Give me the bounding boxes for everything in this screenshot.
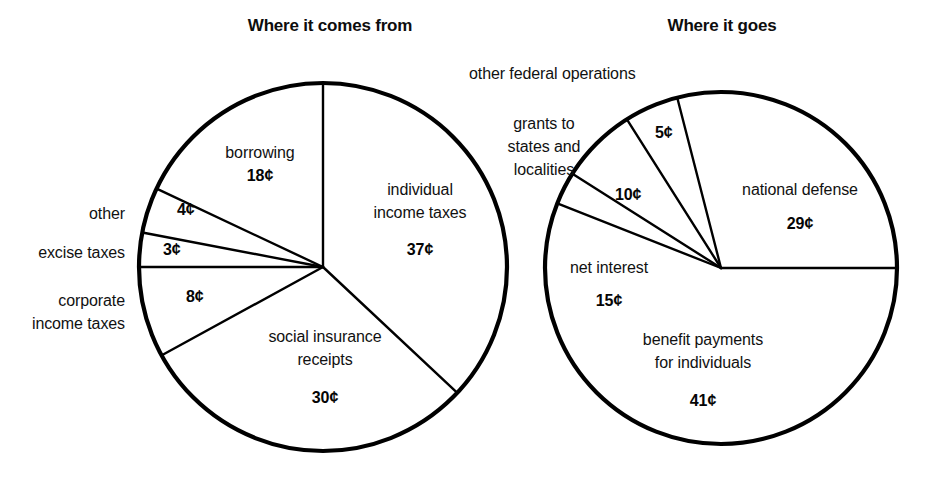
budget-dollar-pie-figure: Where it comes from borrowing 18¢ indivi… — [0, 0, 936, 481]
right-value-grants: 10¢ — [615, 186, 641, 204]
right-value-national-defense: 29¢ — [700, 215, 900, 233]
right-value-net-interest: 15¢ — [524, 292, 694, 310]
right-chart-title: Where it goes — [612, 16, 832, 36]
right-label-benefit-payments-line1: benefit payments — [588, 330, 818, 350]
left-value-other: 4¢ — [177, 201, 195, 219]
right-label-grants-line1: grants to — [464, 114, 624, 134]
right-value-benefit-payments: 41¢ — [588, 392, 818, 410]
left-label-social-insurance-line1: social insurance — [215, 327, 435, 347]
left-value-individual-income-taxes: 37¢ — [335, 241, 505, 259]
right-label-net-interest: net interest — [524, 258, 694, 278]
left-label-excise-taxes: excise taxes — [0, 243, 125, 263]
right-value-other-federal-operations: 5¢ — [655, 124, 673, 142]
left-value-corporate-income-taxes: 8¢ — [186, 288, 204, 306]
left-label-corporate-income-taxes-line2: income taxes — [0, 314, 125, 334]
left-label-other: other — [0, 204, 125, 224]
left-label-social-insurance-line2: receipts — [215, 350, 435, 370]
left-label-individual-income-taxes-line2: income taxes — [335, 203, 505, 223]
left-value-borrowing: 18¢ — [170, 167, 350, 185]
right-label-other-federal-operations: other federal operations — [469, 64, 636, 84]
right-label-grants-line2: states and — [464, 137, 624, 157]
left-label-borrowing: borrowing — [170, 143, 350, 163]
left-value-social-insurance: 30¢ — [215, 389, 435, 407]
left-value-excise-taxes: 3¢ — [163, 241, 181, 259]
left-label-corporate-income-taxes-line1: corporate — [0, 291, 125, 311]
right-label-grants-line3: localities — [464, 160, 624, 180]
left-label-individual-income-taxes-line1: individual — [335, 180, 505, 200]
right-label-national-defense: national defense — [700, 180, 900, 200]
left-chart-title: Where it comes from — [195, 16, 465, 36]
right-label-benefit-payments-line2: for individuals — [588, 353, 818, 373]
